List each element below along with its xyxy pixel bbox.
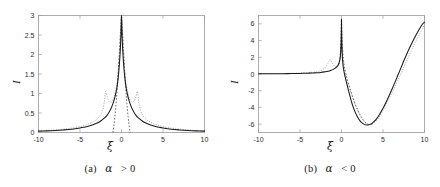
panel-a-xlabel: ξ xyxy=(0,140,220,153)
panel-a: 00.511.522.53 -10-50510 I ξ (a) α > 0 xyxy=(0,0,220,187)
y-tick-label: 2 xyxy=(251,54,255,61)
y-tick-label: -2 xyxy=(248,87,254,94)
figure-container: 00.511.522.53 -10-50510 I ξ (a) α > 0 -6… xyxy=(0,0,440,187)
y-tick-label: 0 xyxy=(251,71,255,78)
panel-a-curve-solid xyxy=(39,16,205,132)
panel-b: -6-4-20246 -10-50510 I ξ (b) α < 0 xyxy=(220,0,440,187)
panel-a-caption-relation: > 0 xyxy=(121,163,135,174)
panel-a-plot: 00.511.522.53 -10-50510 xyxy=(0,0,220,160)
panel-b-curve-solid xyxy=(259,19,425,125)
panel-a-caption-symbol: α xyxy=(105,162,112,174)
y-tick-label: 3 xyxy=(31,12,35,19)
panel-b-ylabel: I xyxy=(228,80,240,84)
y-tick-label: 0.5 xyxy=(25,110,35,117)
panel-a-ylabel: I xyxy=(10,80,22,84)
panel-b-caption: (b) α < 0 xyxy=(220,162,440,174)
panel-b-caption-prefix: (b) xyxy=(304,163,317,174)
panel-b-caption-symbol: α xyxy=(326,162,333,174)
panel-b-caption-relation: < 0 xyxy=(341,163,355,174)
panel-a-y-ticks: 00.511.522.53 xyxy=(25,12,42,136)
y-tick-label: 1 xyxy=(31,90,35,97)
y-tick-label: -4 xyxy=(248,104,254,111)
panel-a-caption: (a) α > 0 xyxy=(0,162,220,174)
y-tick-label: 4 xyxy=(251,37,255,44)
y-tick-label: 6 xyxy=(251,20,255,27)
y-tick-label: -6 xyxy=(248,121,254,128)
y-tick-label: 2 xyxy=(31,51,35,58)
panel-b-plot: -6-4-20246 -10-50510 xyxy=(220,0,440,160)
y-tick-label: 2.5 xyxy=(25,32,35,39)
y-tick-label: 1.5 xyxy=(25,71,35,78)
panel-b-xlabel: ξ xyxy=(220,140,440,153)
panel-a-caption-prefix: (a) xyxy=(85,163,97,174)
